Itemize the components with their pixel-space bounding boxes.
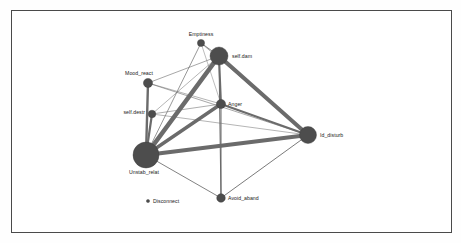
node-label-self-dam: self.dam (232, 53, 252, 59)
label-layer: Emptinessself.damMood_reactself.destrAng… (123, 31, 343, 204)
node-label-unstab-relat: Unstab_relat (129, 169, 160, 175)
node-label-anger: Anger (228, 101, 242, 107)
network-figure: Emptinessself.damMood_reactself.destrAng… (0, 0, 461, 243)
graph-edge (148, 83, 308, 135)
graph-edge (146, 56, 219, 155)
graph-edge (221, 104, 308, 135)
graph-edge (219, 56, 308, 135)
graph-node-emptiness[interactable] (197, 39, 204, 46)
node-layer (133, 39, 317, 202)
graph-node-unstab-relat[interactable] (133, 142, 159, 168)
graph-node-self-destr[interactable] (148, 110, 156, 118)
graph-node-id-disturb[interactable] (300, 127, 317, 144)
node-label-self-destr: self.destr (123, 109, 145, 115)
node-label-disconnect: Disconnect (153, 198, 180, 204)
node-label-avoid-aband: Avoid_aband (228, 195, 259, 201)
graph-node-self-dam[interactable] (210, 47, 228, 65)
node-label-id-disturb: Id_disturb (320, 132, 343, 138)
graph-node-mood-react[interactable] (143, 78, 152, 87)
edge-layer (146, 43, 308, 198)
graph-node-disconnect[interactable] (146, 199, 149, 202)
graph-node-anger[interactable] (216, 99, 225, 108)
node-label-emptiness: Emptiness (189, 31, 214, 37)
graph-edge (152, 114, 308, 135)
network-graph-canvas: Emptinessself.damMood_reactself.destrAng… (0, 0, 461, 243)
graph-node-avoid-aband[interactable] (217, 194, 226, 203)
node-label-mood-react: Mood_react (125, 70, 153, 76)
